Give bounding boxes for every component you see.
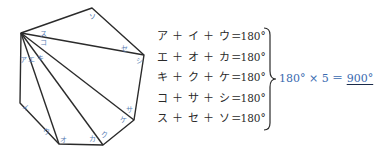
equation-row-4: コ ＋ サ ＋ シ＝180°: [157, 88, 266, 109]
result-answer: 900°: [347, 72, 374, 85]
equation-row-1: ア ＋ イ ＋ ウ＝180°: [157, 26, 266, 47]
angle-label-so: ソ: [89, 13, 96, 21]
diagonal-2: [21, 33, 103, 145]
angle-label-sa: サ: [126, 106, 133, 114]
heptagon-figure: ア イ ウ エ オ カ キ ク ケ コ サ シ ス セ ソ: [0, 0, 160, 151]
equation-rhs: ＝180°: [231, 30, 266, 42]
angle-label-i: イ: [22, 104, 29, 112]
angle-label-ka: カ: [89, 135, 96, 143]
angle-label-o: オ: [60, 136, 67, 144]
heptagon-outline: [20, 8, 144, 145]
equation-lhs: コ ＋ サ ＋ シ: [157, 92, 231, 105]
equation-row-2: エ ＋ オ ＋ カ＝180°: [157, 47, 266, 68]
result-expression: 180° × 5 ＝ 900°: [279, 69, 373, 85]
angle-label-u: ウ: [43, 128, 50, 136]
angle-label-e: エ: [28, 56, 35, 64]
angle-label-shi: シ: [136, 57, 143, 65]
equation-rhs: ＝180°: [231, 71, 266, 83]
equation-row-5: ス ＋ セ ＋ ソ＝180°: [157, 108, 266, 129]
right-brace: [262, 27, 278, 131]
angle-label-a: ア: [20, 56, 27, 64]
angle-label-su: ス: [40, 30, 47, 38]
angle-label-ko: コ: [40, 39, 47, 47]
equation-lhs: ス ＋ セ ＋ ソ: [157, 112, 231, 125]
diagonal-1: [21, 33, 59, 144]
equation-list: ア ＋ イ ＋ ウ＝180° エ ＋ オ ＋ カ＝180° キ ＋ ク ＋ ケ＝…: [157, 26, 266, 129]
angle-label-ku: ク: [101, 131, 108, 139]
angle-label-se: セ: [121, 45, 128, 53]
angle-label-ke: ケ: [120, 116, 127, 124]
equation-rhs: ＝180°: [231, 112, 266, 124]
equation-row-3: キ ＋ ク ＋ ケ＝180°: [157, 67, 266, 88]
equation-lhs: キ ＋ ク ＋ ケ: [157, 71, 231, 84]
result-formula: 180° × 5 ＝: [279, 72, 347, 85]
angle-label-ki: キ: [37, 54, 44, 62]
equation-rhs: ＝180°: [231, 92, 266, 104]
equation-lhs: エ ＋ オ ＋ カ: [157, 51, 231, 64]
equation-rhs: ＝180°: [231, 51, 266, 63]
equation-lhs: ア ＋ イ ＋ ウ: [157, 30, 231, 43]
diagonal-3: [21, 33, 134, 120]
